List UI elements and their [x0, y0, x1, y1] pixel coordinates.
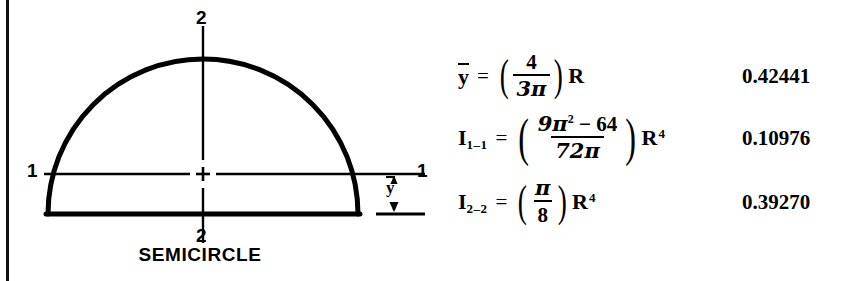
equation-row: y = ( 4 3π ) R 0.42441 — [448, 48, 854, 104]
axis-label-1-right: 1 — [417, 161, 428, 180]
equation-rhs-symbol: R — [572, 189, 588, 215]
equation-i22: I2–2 = ( π 8 ) R4 — [458, 177, 595, 227]
equation-ybar: y = ( 4 3π ) R — [458, 51, 584, 101]
ybar-dimension-label: y — [386, 176, 395, 196]
axis-label-2-top: 2 — [196, 8, 207, 27]
fraction-numerator: 4 — [522, 51, 541, 74]
fraction-denominator: 72π — [551, 136, 604, 163]
paren-left-icon: ( — [519, 118, 530, 159]
paren-left-icon: ( — [500, 59, 509, 93]
equation-lhs-subscript: 1–1 — [467, 137, 488, 153]
fraction-denominator: 3π — [513, 74, 551, 101]
equation-fraction-group: ( π 8 ) — [515, 177, 570, 227]
fraction-numerator-lead: 9π — [538, 111, 568, 136]
equation-lhs-symbol: I — [458, 189, 467, 215]
semicircle-figure: 2 2 1 1 y SEMICIRCLE — [0, 0, 440, 281]
axis-label-1-left: 1 — [27, 161, 38, 180]
equation-equals-sign: = — [496, 190, 508, 215]
equation-lhs: I1–1 — [458, 125, 488, 151]
equation-rhs: R4 — [642, 125, 665, 151]
equation-i11: I1–1 = ( 9π2 − 64 72π ) R4 — [458, 113, 665, 163]
equations-panel: y = ( 4 3π ) R 0.42441 — [448, 0, 854, 281]
equation-fraction-group: ( 4 3π ) — [497, 51, 566, 101]
paren-left-icon: ( — [518, 185, 527, 219]
equation-rhs-symbol: R — [568, 63, 584, 89]
equation-equals-sign: = — [496, 126, 508, 151]
equation-rhs: R — [568, 63, 584, 89]
fraction: 4 3π — [513, 51, 551, 101]
figure-caption: SEMICIRCLE — [0, 244, 400, 266]
ybar-arrow-down-icon — [389, 201, 399, 212]
axis-label-2-bottom: 2 — [196, 226, 207, 245]
paren-right-icon: ) — [625, 118, 636, 159]
fraction-numerator-exponent: 2 — [568, 112, 574, 126]
fraction-numerator: π — [531, 177, 554, 200]
ybar-dimension-label-text: y — [386, 176, 395, 196]
equation-lhs: y — [458, 63, 469, 88]
fraction: 9π2 − 64 72π — [534, 113, 621, 163]
paren-right-icon: ) — [554, 59, 563, 93]
equation-value: 0.10976 — [742, 126, 854, 151]
equation-equals-sign: = — [477, 64, 489, 89]
figure-page: 2 2 1 1 y SEMICIRCLE y = ( 4 3π — [0, 0, 854, 281]
equation-value: 0.42441 — [742, 64, 854, 89]
equation-rhs-exponent: 4 — [589, 190, 596, 206]
equation-rhs-exponent: 4 — [658, 126, 665, 142]
equation-row: I2–2 = ( π 8 ) R4 0.39270 — [448, 174, 854, 230]
equation-row: I1–1 = ( 9π2 − 64 72π ) R4 0.10976 — [448, 110, 854, 166]
semicircle-drawing — [0, 0, 440, 281]
fraction-numerator: 9π2 − 64 — [534, 113, 621, 136]
fraction-numerator-tail: − 64 — [579, 112, 617, 136]
equation-rhs: R4 — [572, 189, 595, 215]
paren-right-icon: ) — [558, 185, 567, 219]
equation-lhs-subscript: 2–2 — [467, 201, 488, 217]
fraction: π 8 — [531, 177, 554, 227]
equation-fraction-group: ( 9π2 − 64 72π ) — [515, 113, 639, 163]
equation-lhs-symbol: I — [458, 125, 467, 151]
equation-value: 0.39270 — [742, 190, 854, 215]
equation-rhs-symbol: R — [642, 125, 658, 151]
equation-lhs: I2–2 — [458, 189, 488, 215]
fraction-denominator: 8 — [534, 200, 553, 227]
equation-lhs-symbol: y — [458, 63, 469, 88]
